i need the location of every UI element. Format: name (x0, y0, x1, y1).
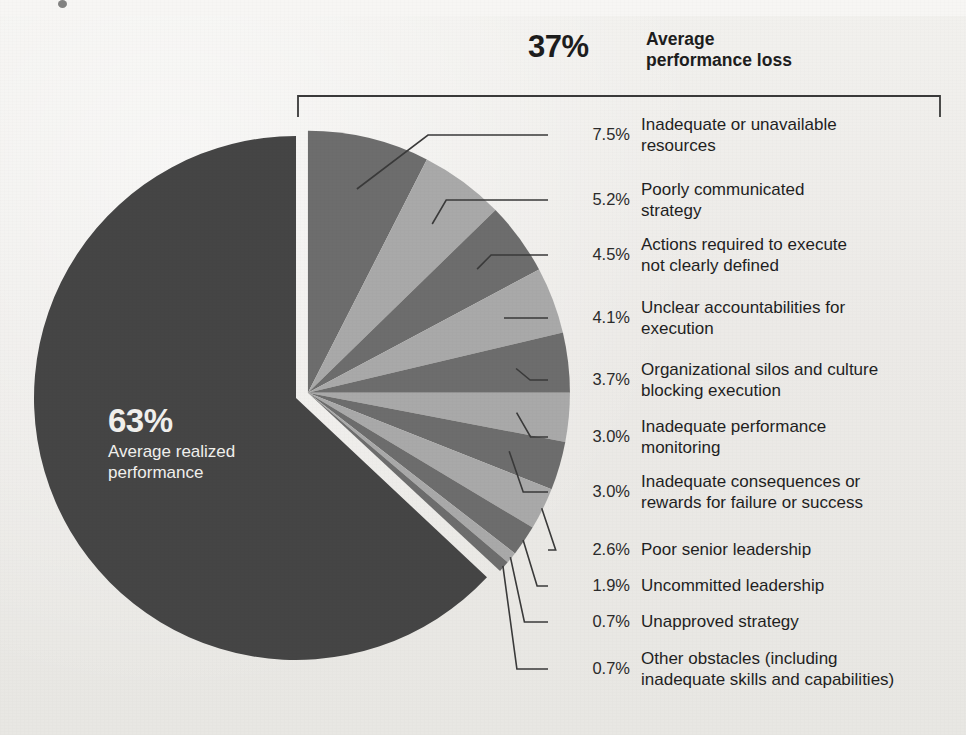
callout-percent: 4.5% (552, 245, 630, 264)
callout-label-line1: Actions required to execute (641, 235, 847, 254)
realized-performance-caption-line2: performance (108, 463, 203, 482)
realized-performance-caption-line1: Average realized (108, 442, 235, 461)
callout-label-line1: Unclear accountabilities for (641, 298, 845, 317)
callout-label: Poorly communicatedstrategy (641, 179, 963, 221)
callout-label-line1: Poorly communicated (641, 180, 804, 199)
callout-label: Inadequate consequences orrewards for fa… (641, 471, 963, 513)
callout-label-line2: resources (641, 136, 716, 155)
callout-percent: 4.1% (552, 308, 630, 327)
realized-performance-percent: 63% (108, 404, 318, 438)
callout-leader-line (503, 566, 548, 669)
callout-label-line2: monitoring (641, 438, 720, 457)
callout-label-line2: rewards for failure or success (641, 493, 863, 512)
callout-label-line2: strategy (641, 201, 701, 220)
callout-label: Inadequate or unavailableresources (641, 114, 963, 156)
figure-root: 37% Average performance loss 63% Average… (0, 0, 966, 735)
callout-label-line2: inadequate skills and capabilities) (641, 670, 894, 689)
callout-label-line1: Inadequate performance (641, 417, 826, 436)
callout-label-line1: Organizational silos and culture (641, 360, 878, 379)
total-loss-percent: 37% (528, 29, 589, 65)
callout-label: Uncommitted leadership (641, 575, 963, 596)
realized-performance-caption: Average realized performance (108, 441, 318, 483)
callout-label-line1: Unapproved strategy (641, 612, 799, 631)
callout-leader-line (510, 557, 548, 622)
total-loss-caption-line2: performance loss (646, 50, 792, 70)
realized-performance-label: 63% Average realized performance (108, 404, 318, 483)
callout-percent: 1.9% (552, 576, 630, 595)
callout-percent: 5.2% (552, 190, 630, 209)
callout-percent: 0.7% (552, 659, 630, 678)
callout-label: Unapproved strategy (641, 611, 963, 632)
callout-label: Other obstacles (includinginadequate ski… (641, 648, 963, 690)
callout-label-line1: Inadequate consequences or (641, 472, 860, 491)
callout-label-line2: execution (641, 319, 714, 338)
callout-label-line1: Other obstacles (including (641, 649, 838, 668)
callout-percent: 2.6% (552, 540, 630, 559)
callout-label-line1: Inadequate or unavailable (641, 115, 837, 134)
total-loss-caption-line1: Average (646, 29, 714, 49)
callout-label-line2: blocking execution (641, 381, 781, 400)
callout-label: Organizational silos and cultureblocking… (641, 359, 963, 401)
callout-label: Unclear accountabilities forexecution (641, 297, 963, 339)
callout-percent: 7.5% (552, 125, 630, 144)
callout-label: Inadequate performancemonitoring (641, 416, 963, 458)
callout-label: Actions required to executenot clearly d… (641, 234, 963, 276)
callout-label-line1: Poor senior leadership (641, 540, 811, 559)
callout-percent: 3.7% (552, 370, 630, 389)
callout-label: Poor senior leadership (641, 539, 963, 560)
callout-label-line1: Uncommitted leadership (641, 576, 824, 595)
callout-percent: 0.7% (552, 612, 630, 631)
callout-percent: 3.0% (552, 482, 630, 501)
callout-percent: 3.0% (552, 427, 630, 446)
callout-label-line2: not clearly defined (641, 256, 779, 275)
callout-leader-line (523, 540, 548, 586)
pie-slices-group (34, 131, 570, 660)
total-loss-caption: Average performance loss (646, 29, 906, 71)
